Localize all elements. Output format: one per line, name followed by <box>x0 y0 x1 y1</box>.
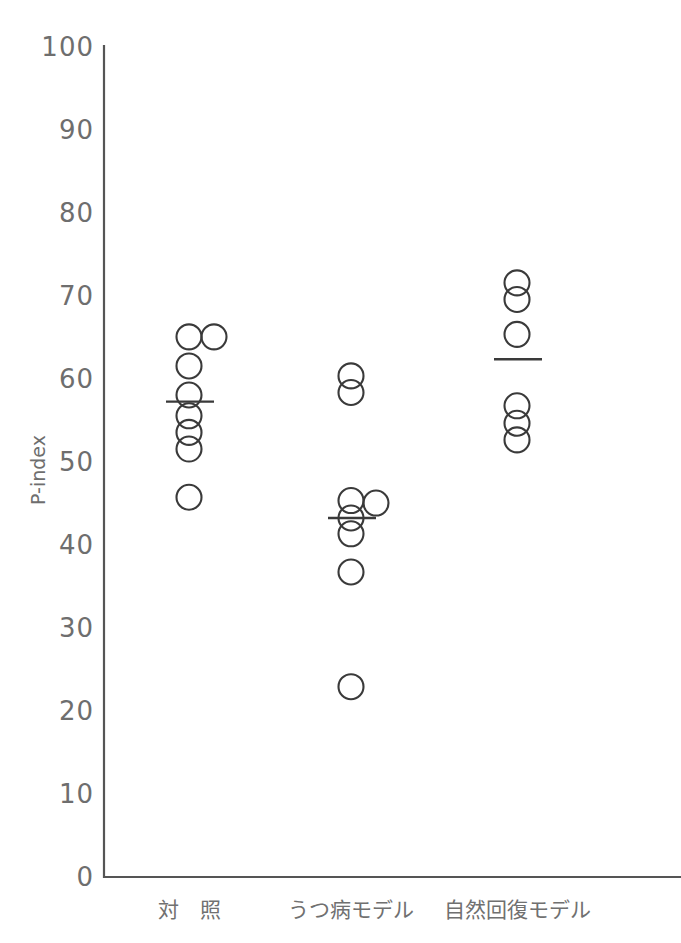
x-label-recovery-model: 自然回復モデル <box>444 898 591 922</box>
chart-container: 100 90 80 70 60 50 40 30 20 10 0 P-index… <box>0 0 681 943</box>
y-tick-70: 70 <box>59 281 94 311</box>
y-axis-title: P-index <box>27 435 49 505</box>
y-tick-90: 90 <box>59 115 94 145</box>
y-tick-100: 100 <box>41 32 94 62</box>
data-point <box>177 437 202 462</box>
y-tick-10: 10 <box>59 779 94 809</box>
data-point <box>339 380 364 405</box>
x-label-depression-model: うつ病モデル <box>288 898 414 922</box>
y-tick-40: 40 <box>59 530 94 560</box>
x-label-control: 対 照 <box>158 898 221 922</box>
data-point <box>177 324 202 349</box>
data-point <box>177 353 202 378</box>
y-tick-50: 50 <box>59 447 94 477</box>
data-group-1 <box>166 324 227 509</box>
y-tick-60: 60 <box>59 364 94 394</box>
data-point <box>339 560 364 585</box>
data-group-3 <box>494 270 542 452</box>
data-point <box>505 287 530 312</box>
data-point <box>339 674 364 699</box>
y-tick-0: 0 <box>76 862 94 892</box>
data-point <box>505 322 530 347</box>
y-axis-tick-labels: 100 90 80 70 60 50 40 30 20 10 0 <box>41 32 94 892</box>
y-tick-20: 20 <box>59 696 94 726</box>
data-point <box>177 485 202 510</box>
data-point <box>505 427 530 452</box>
y-tick-80: 80 <box>59 198 94 228</box>
y-tick-30: 30 <box>59 613 94 643</box>
dot-plot-figure: 100 90 80 70 60 50 40 30 20 10 0 P-index… <box>0 0 681 943</box>
data-points-layer <box>166 270 542 699</box>
data-group-2 <box>328 363 389 699</box>
data-point <box>202 324 227 349</box>
data-point <box>339 521 364 546</box>
data-point <box>364 491 389 516</box>
